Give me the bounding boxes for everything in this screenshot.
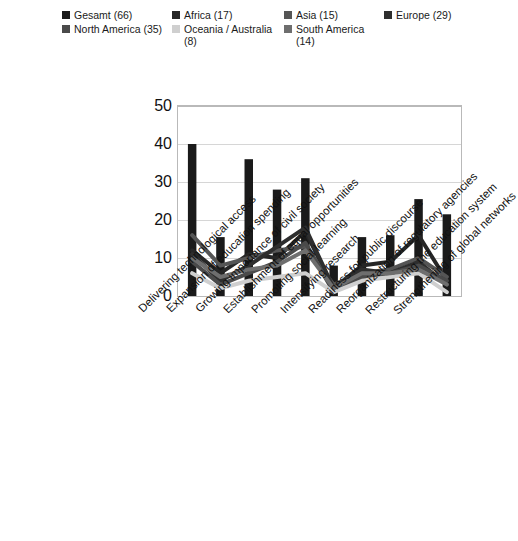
y-axis-tick-label: 30 bbox=[128, 174, 172, 190]
y-axis-tick-label: 50 bbox=[128, 98, 172, 114]
legend-item-asia: Asia (15) bbox=[284, 9, 384, 21]
y-axis-tick-label: 10 bbox=[128, 250, 172, 266]
legend-label-north-america: North America (35) bbox=[74, 23, 162, 35]
legend-item-europe: Europe (29) bbox=[384, 9, 482, 21]
legend-swatch-asia bbox=[284, 11, 292, 19]
y-axis-tick-label: 20 bbox=[128, 212, 172, 228]
legend-swatch-africa bbox=[172, 11, 180, 19]
x-axis-labels: Delivering technological accessExpansion… bbox=[0, 300, 497, 530]
legend-label-asia: Asia (15) bbox=[296, 9, 338, 21]
legend-item-gesamt: Gesamt (66) bbox=[62, 9, 172, 21]
legend-row-1: Gesamt (66) Africa (17) Asia (15) Europe… bbox=[62, 9, 482, 21]
legend-label-gesamt: Gesamt (66) bbox=[74, 9, 132, 21]
chart-legend: Gesamt (66) Africa (17) Asia (15) Europe… bbox=[62, 9, 482, 49]
legend-swatch-europe bbox=[384, 11, 392, 19]
y-axis: 01020304050 bbox=[128, 96, 172, 306]
legend-swatch-oceania-australia bbox=[172, 25, 180, 33]
legend-swatch-north-america bbox=[62, 25, 70, 33]
legend-item-south-america: South America (14) bbox=[284, 23, 384, 47]
legend-swatch-south-america bbox=[284, 25, 292, 33]
legend-label-south-america: South America (14) bbox=[296, 23, 384, 47]
legend-label-africa: Africa (17) bbox=[184, 9, 232, 21]
legend-row-2: North America (35) Oceania / Australia (… bbox=[62, 23, 482, 47]
legend-label-oceania-australia: Oceania / Australia (8) bbox=[184, 23, 284, 47]
legend-item-africa: Africa (17) bbox=[172, 9, 284, 21]
y-axis-tick-label: 40 bbox=[128, 136, 172, 152]
legend-item-north-america: North America (35) bbox=[62, 23, 172, 35]
legend-swatch-gesamt bbox=[62, 11, 70, 19]
legend-label-europe: Europe (29) bbox=[396, 9, 451, 21]
legend-item-oceania-australia: Oceania / Australia (8) bbox=[172, 23, 284, 47]
